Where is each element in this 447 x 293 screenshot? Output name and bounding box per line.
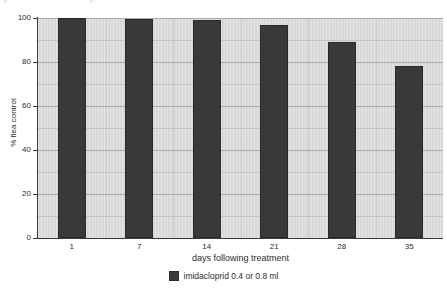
plot-area: [38, 18, 443, 238]
gridline-minor: [38, 216, 443, 217]
gridline-minor: [38, 128, 443, 129]
gridline: [38, 18, 443, 19]
x-tick-label: 35: [389, 242, 429, 251]
y-tick-label: 100: [1, 14, 31, 22]
y-tick-mark: [33, 62, 37, 63]
y-tick-label: 0: [1, 234, 31, 242]
gridline-minor: [38, 84, 443, 85]
y-tick-mark: [33, 194, 37, 195]
legend-swatch-icon: [169, 271, 179, 281]
x-tick-label: 14: [187, 242, 227, 251]
gridline: [38, 150, 443, 151]
gridline: [38, 106, 443, 107]
bar[interactable]: [328, 42, 356, 238]
chart-legend: imidacloprid 0.4 or 0.8 ml: [0, 271, 447, 281]
y-tick-mark: [33, 18, 37, 19]
y-tick-mark: [33, 238, 37, 239]
x-tick-label: 7: [119, 242, 159, 251]
gridline-minor: [38, 40, 443, 41]
bar[interactable]: [125, 19, 153, 238]
x-axis-title: days following treatment: [38, 253, 443, 263]
gridline: [38, 194, 443, 195]
x-axis-line: [37, 238, 443, 239]
x-tick-label: 21: [254, 242, 294, 251]
bar[interactable]: [260, 25, 288, 238]
y-tick-label: 20: [1, 190, 31, 198]
scan-artifact: [93, 0, 94, 2]
y-tick-mark: [33, 150, 37, 151]
y-axis-title: % flea control: [9, 63, 18, 183]
x-tick-label: 1: [52, 242, 92, 251]
y-axis-line: [37, 17, 38, 239]
legend-label: imidacloprid 0.4 or 0.8 ml: [184, 271, 279, 281]
bar[interactable]: [193, 20, 221, 238]
bar[interactable]: [58, 18, 86, 238]
chart-figure: 020406080100 1714212835 % flea control d…: [0, 0, 447, 293]
gridline-minor: [38, 172, 443, 173]
y-tick-mark: [33, 106, 37, 107]
bar[interactable]: [395, 66, 423, 238]
scan-artifact: [90, 0, 92, 3]
x-tick-label: 28: [322, 242, 362, 251]
gridline: [38, 62, 443, 63]
